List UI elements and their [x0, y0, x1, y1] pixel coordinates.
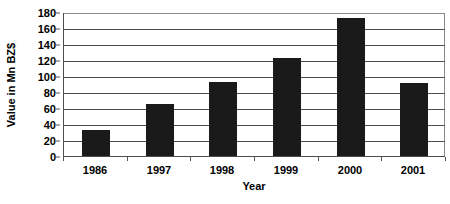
y-tick-mark: [56, 45, 60, 46]
x-tick-mark: [318, 157, 319, 161]
y-tick-label: 60: [44, 103, 56, 115]
y-tick-mark: [56, 29, 60, 30]
x-tick-mark: [445, 157, 446, 161]
y-tick-mark: [56, 141, 60, 142]
y-tick-label: 40: [44, 119, 56, 131]
bar: [146, 104, 174, 156]
bar: [400, 83, 428, 156]
y-tick-mark: [56, 109, 60, 110]
y-tick-mark: [56, 13, 60, 14]
x-tick-mark: [381, 157, 382, 161]
bar-chart: Value in Mn BZ$ 020406080100120140160180…: [0, 0, 450, 204]
y-tick-mark: [56, 125, 60, 126]
x-tick-label: 1997: [147, 164, 171, 176]
y-axis-title: Value in Mn BZ$: [0, 0, 22, 170]
y-axis-ticks: 020406080100120140160180: [22, 13, 60, 157]
x-tick-mark: [127, 157, 128, 161]
y-tick-label: 100: [38, 71, 56, 83]
x-tick-label: 1986: [83, 164, 107, 176]
y-tick-mark: [56, 157, 60, 158]
bar: [273, 58, 301, 156]
x-tick-mark: [254, 157, 255, 161]
y-tick-mark: [56, 77, 60, 78]
y-tick-label: 80: [44, 87, 56, 99]
y-tick-label: 140: [38, 39, 56, 51]
y-tick-mark: [56, 61, 60, 62]
x-tick-label: 2000: [338, 164, 362, 176]
y-axis-title-text: Value in Mn BZ$: [5, 43, 17, 127]
y-tick-label: 20: [44, 135, 56, 147]
x-tick-mark: [190, 157, 191, 161]
plot-area: [63, 13, 445, 157]
bar: [82, 130, 110, 156]
x-tick-label: 2001: [401, 164, 425, 176]
x-axis-title: Year: [63, 180, 445, 192]
y-tick-label: 120: [38, 55, 56, 67]
bar: [209, 82, 237, 156]
y-tick-label: 180: [38, 7, 56, 19]
bar: [337, 18, 365, 156]
y-tick-label: 160: [38, 23, 56, 35]
bars-group: [64, 13, 445, 156]
x-tick-label: 1999: [274, 164, 298, 176]
x-tick-mark: [63, 157, 64, 161]
x-axis-ticks: 198619971998199920002001: [63, 157, 445, 179]
y-tick-mark: [56, 93, 60, 94]
x-tick-label: 1998: [210, 164, 234, 176]
